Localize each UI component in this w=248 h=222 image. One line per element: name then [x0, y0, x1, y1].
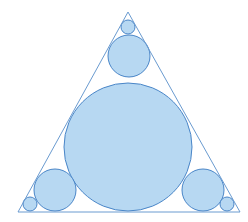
top-medium-circle — [108, 35, 150, 77]
incircle-large-circle — [64, 83, 192, 211]
bottom-right-small-circle — [220, 197, 234, 211]
circle-group — [23, 20, 234, 211]
bottom-right-medium-circle — [182, 169, 224, 211]
triangle-circles-diagram — [0, 0, 248, 222]
bottom-left-medium-circle — [34, 169, 76, 211]
top-small-circle — [121, 20, 135, 34]
